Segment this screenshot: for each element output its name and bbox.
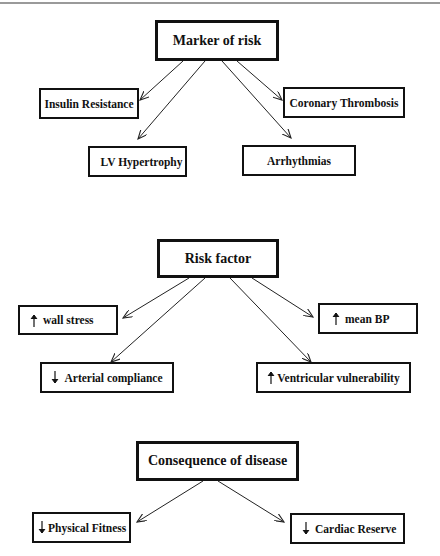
cardiac-reserve-box: Cardiac Reserve	[290, 513, 405, 544]
arrow-to-coronary-thrombosis	[237, 61, 282, 100]
down-arrow-icon	[51, 371, 59, 384]
marker-of-risk-box: Marker of risk	[155, 20, 279, 61]
mean-bp-label: mean BP	[345, 313, 389, 325]
arrow-to-arrhythmias	[222, 61, 291, 138]
down-arrow-icon	[302, 522, 310, 535]
up-arrow-icon	[30, 314, 38, 327]
up-arrow-icon	[267, 371, 275, 384]
arrow-to-insulin-resistance	[140, 61, 183, 100]
lv-hypertrophy-box: LV Hypertrophy	[88, 146, 187, 177]
marker-of-risk-title: Marker of risk	[173, 33, 261, 49]
top-rule	[0, 2, 440, 4]
coronary-thrombosis-box: Coronary Thrombosis	[283, 87, 405, 118]
insulin-resistance-label: Insulin Resistance	[44, 98, 133, 110]
arterial-compliance-label: Arterial compliance	[64, 372, 162, 384]
insulin-resistance-box: Insulin Resistance	[39, 88, 139, 119]
ventricular-vulnerability-box: Ventricular vulnerability	[256, 362, 411, 393]
arrhythmias-label: Arrhythmias	[267, 155, 331, 167]
up-arrow-icon	[332, 312, 340, 325]
physical-fitness-label: Physical Fitness	[48, 522, 126, 534]
lv-hypertrophy-label: LV Hypertrophy	[101, 156, 183, 168]
arrow-to-physical-fitness	[137, 481, 203, 522]
arterial-compliance-box: Arterial compliance	[40, 362, 174, 393]
arrow-to-arterial-compliance	[111, 278, 205, 362]
arrow-to-wall-stress	[123, 278, 189, 318]
ventricular-vulnerability-label: Ventricular vulnerability	[277, 372, 399, 384]
coronary-thrombosis-label: Coronary Thrombosis	[290, 97, 399, 109]
risk-factor-title: Risk factor	[185, 251, 252, 267]
consequence-of-disease-title: Consequence of disease	[148, 453, 287, 469]
arrow-to-lv-hypertrophy	[138, 61, 205, 139]
arrow-to-cardiac-reserve	[218, 481, 284, 522]
risk-factor-box: Risk factor	[157, 239, 279, 278]
physical-fitness-box: Physical Fitness	[32, 512, 131, 543]
down-arrow-icon	[38, 521, 46, 534]
wall-stress-box: wall stress	[18, 305, 118, 335]
wall-stress-label: wall stress	[43, 314, 94, 326]
cardiac-reserve-label: Cardiac Reserve	[315, 523, 396, 535]
arrow-to-ventricular-vulnerability	[230, 278, 311, 362]
consequence-of-disease-box: Consequence of disease	[136, 441, 299, 481]
arrhythmias-box: Arrhythmias	[242, 145, 356, 176]
mean-bp-box: mean BP	[318, 303, 418, 334]
arrow-to-mean-bp	[252, 278, 313, 317]
